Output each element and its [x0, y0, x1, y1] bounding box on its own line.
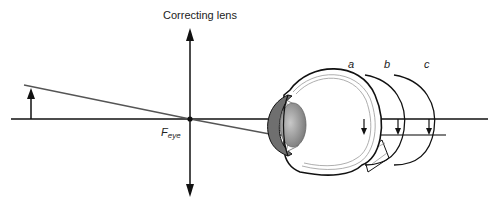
image-arrow-b: [395, 119, 401, 135]
correcting-lens-label: Correcting lens: [163, 9, 237, 21]
focal-point-dot: [187, 116, 192, 121]
optics-diagram: [0, 0, 498, 204]
image-arrow-c: [426, 119, 432, 135]
retina-label-c: c: [424, 58, 430, 70]
focal-point-label: Feye: [161, 126, 181, 140]
correcting-lens-arrow: [186, 28, 194, 197]
eye-illustration: [268, 69, 389, 175]
retina-label-b: b: [384, 58, 390, 70]
retina-label-a: a: [348, 58, 354, 70]
light-ray: [24, 85, 190, 119]
focal-label-subscript: eye: [168, 131, 181, 140]
object-arrow: [27, 88, 35, 119]
light-ray-refracted: [190, 119, 275, 135]
focal-label-main: F: [161, 126, 168, 138]
